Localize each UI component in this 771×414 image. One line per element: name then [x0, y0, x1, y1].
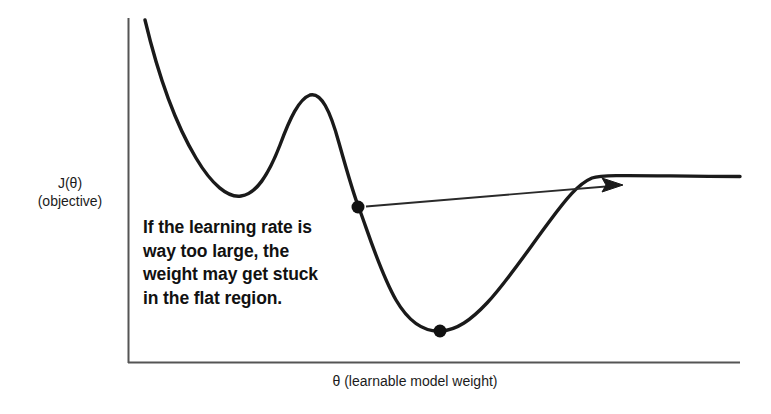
stuck-point-marker: [352, 201, 365, 214]
annotation-line-2: way too large, the: [143, 240, 358, 264]
y-axis-label-line2: (objective): [20, 192, 120, 210]
x-axis-label: θ (learnable model weight): [305, 372, 525, 390]
global-minimum-marker: [434, 325, 447, 338]
annotation-line-3: weight may get stuck: [143, 263, 358, 287]
annotation-line-4: in the flat region.: [143, 287, 358, 311]
y-axis-label: J(θ) (objective): [20, 174, 120, 210]
y-axis-label-line1: J(θ): [20, 174, 120, 192]
annotation-text-block: If the learning rate is way too large, t…: [143, 216, 358, 310]
annotation-line-1: If the learning rate is: [143, 216, 358, 240]
